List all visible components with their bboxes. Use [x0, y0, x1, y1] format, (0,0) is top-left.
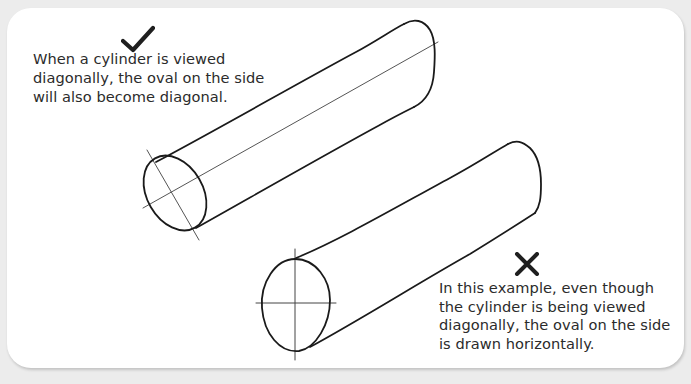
- front-oval-horizontal: [262, 259, 330, 351]
- cylinder-top-edge: [296, 144, 508, 258]
- caption-incorrect-example: In this example, even though the cylinde…: [439, 279, 670, 353]
- oval-minor-axis-line: [147, 150, 199, 240]
- caption-line: the cylinder is being viewed: [439, 298, 670, 317]
- caption-line: will also become diagonal.: [33, 87, 264, 106]
- front-oval-diagonal: [131, 144, 219, 241]
- cylinder-back-cap: [404, 21, 435, 107]
- caption-line: When a cylinder is viewed: [33, 49, 264, 68]
- diagram-stage: When a cylinder is viewed diagonally, th…: [0, 0, 691, 384]
- cylinder-back-cap: [508, 142, 541, 213]
- caption-line: diagonally, the oval on the side: [439, 316, 670, 335]
- caption-correct-example: When a cylinder is viewed diagonally, th…: [33, 49, 264, 107]
- cross-icon: [514, 252, 540, 276]
- caption-line: is drawn horizontally.: [439, 335, 670, 354]
- cylinder-bottom-edge: [196, 107, 414, 228]
- caption-line: diagonally, the oval on the side: [33, 68, 264, 87]
- caption-line: In this example, even though: [439, 279, 670, 298]
